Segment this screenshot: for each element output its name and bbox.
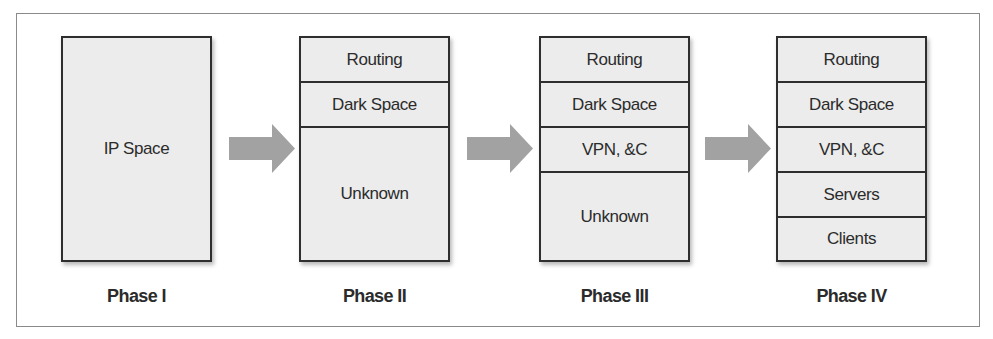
arrow-right-icon bbox=[467, 124, 533, 173]
phase-4-label: Phase IV bbox=[776, 286, 927, 307]
segment-ip-space: IP Space bbox=[63, 38, 210, 260]
segment-vpn: VPN, &C bbox=[778, 128, 925, 173]
segment-dark-space: Dark Space bbox=[301, 83, 448, 128]
phase-1-label: Phase I bbox=[61, 286, 212, 307]
arrow-right-icon bbox=[705, 124, 771, 173]
phase-1-stack: IP Space bbox=[61, 36, 212, 262]
phase-2-label: Phase II bbox=[299, 286, 450, 307]
segment-dark-space: Dark Space bbox=[778, 83, 925, 128]
phase-3-stack: Routing Dark Space VPN, &C Unknown bbox=[539, 36, 690, 262]
segment-routing: Routing bbox=[541, 38, 688, 83]
segment-routing: Routing bbox=[301, 38, 448, 83]
phase-3-label: Phase III bbox=[539, 286, 690, 307]
phase-2-stack: Routing Dark Space Unknown bbox=[299, 36, 450, 262]
segment-servers: Servers bbox=[778, 173, 925, 218]
segment-routing: Routing bbox=[778, 38, 925, 83]
segment-unknown: Unknown bbox=[301, 128, 448, 260]
segment-dark-space: Dark Space bbox=[541, 83, 688, 128]
segment-vpn: VPN, &C bbox=[541, 128, 688, 173]
arrow-right-icon bbox=[229, 124, 295, 173]
segment-clients: Clients bbox=[778, 218, 925, 260]
phase-4-stack: Routing Dark Space VPN, &C Servers Clien… bbox=[776, 36, 927, 262]
segment-unknown: Unknown bbox=[541, 173, 688, 260]
